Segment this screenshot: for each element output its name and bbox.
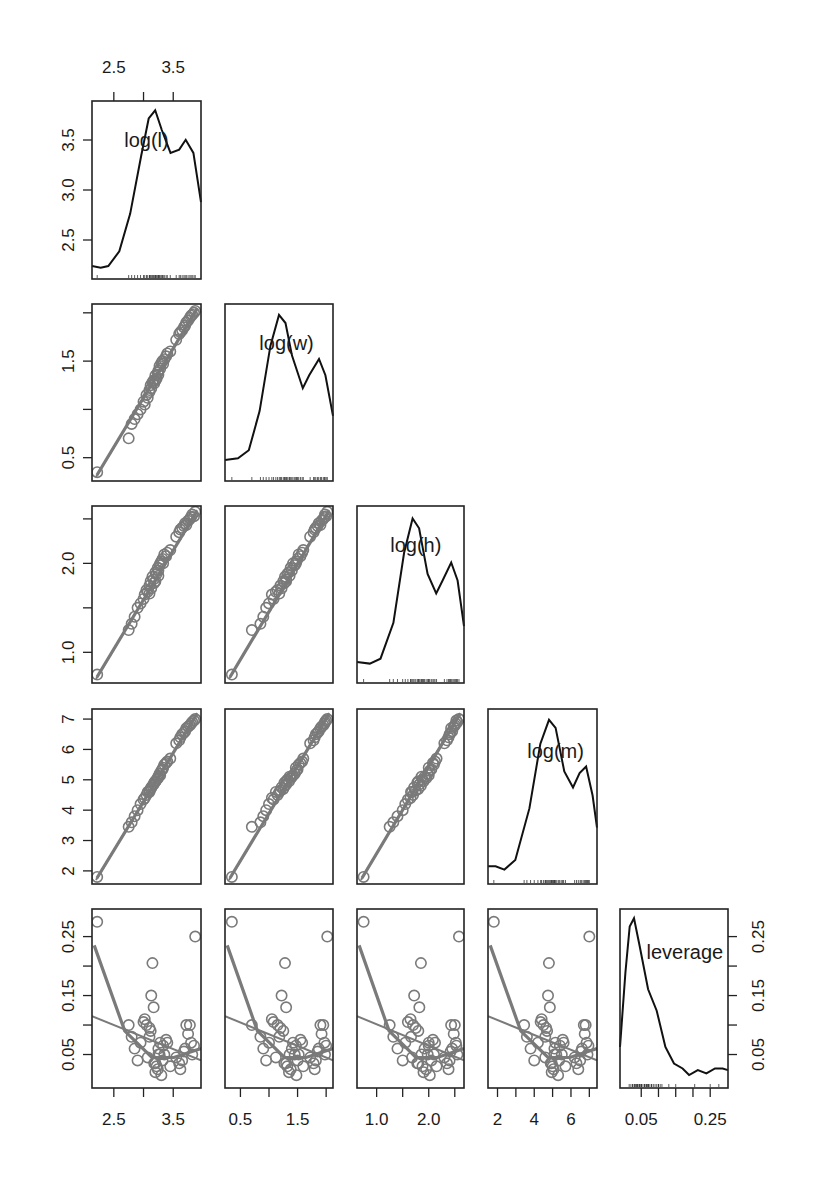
panel-content <box>92 306 200 478</box>
scatter-panel <box>488 909 597 1088</box>
axis-tick-label: 0.5 <box>59 446 78 470</box>
data-point <box>454 931 464 941</box>
smooth-fit-line <box>359 945 464 1057</box>
axis-tick-label: 0.05 <box>59 1038 78 1071</box>
data-point <box>146 990 156 1000</box>
axis-tick-label: 0.5 <box>229 1110 253 1129</box>
scatterplot-matrix: log(l)log(w)log(h)log(m)leverage2.53.03.… <box>0 0 818 1181</box>
axis-tick-label: 4 <box>59 805 78 814</box>
axis-tick-label: 1.5 <box>286 1110 310 1129</box>
panel-content <box>357 917 464 1081</box>
data-point <box>298 1061 308 1071</box>
data-point <box>148 1002 158 1012</box>
scatter-panel <box>92 304 201 481</box>
data-point <box>280 958 290 968</box>
data-point <box>416 958 426 968</box>
axis-tick-label: 7 <box>59 714 78 723</box>
scatter-panel <box>92 709 201 884</box>
bottom-axis-4: 0.050.25 <box>625 1088 727 1129</box>
axis-tick-label: 2.0 <box>59 552 78 576</box>
data-point <box>560 1061 570 1071</box>
axis-tick-label: 1.0 <box>59 640 78 664</box>
panel-content <box>488 917 597 1081</box>
axis-tick-label: 6 <box>566 1110 575 1129</box>
axis-tick-label: 3.0 <box>59 178 78 202</box>
scatter-panel <box>225 909 333 1088</box>
data-point <box>544 958 554 968</box>
data-point <box>258 1043 268 1053</box>
smooth-fit-line <box>230 511 329 677</box>
scatter-panel <box>92 506 201 683</box>
axis-tick-label: 0.25 <box>694 1110 727 1129</box>
panel-content <box>92 713 200 882</box>
panel-frame <box>620 909 728 1088</box>
scatter-panel <box>92 909 201 1088</box>
variable-label: log(w) <box>259 332 313 354</box>
variable-label: log(l) <box>124 129 168 151</box>
axis-tick-label: 0.25 <box>59 920 78 953</box>
bottom-axis-1: 0.51.5 <box>229 1088 327 1129</box>
axis-tick-label: 3.5 <box>59 128 78 152</box>
panel-frame <box>225 304 333 481</box>
panel-content <box>225 917 333 1081</box>
data-point <box>261 1055 271 1065</box>
bottom-axis-3: 246 <box>493 1088 590 1129</box>
axis-tick-label: 2.5 <box>102 58 126 77</box>
data-point <box>430 1038 440 1048</box>
panel-frame <box>357 506 464 683</box>
data-point <box>267 1014 277 1024</box>
data-point <box>147 958 157 968</box>
data-point <box>409 990 419 1000</box>
axis-tick-label: 3.5 <box>161 1110 185 1129</box>
data-point <box>123 1020 133 1030</box>
axis-tick-label: 3 <box>59 836 78 845</box>
data-point <box>414 1002 424 1012</box>
data-point <box>358 917 368 927</box>
density-panel-logh: log(h) <box>357 506 464 683</box>
axis-tick-label: 6 <box>59 745 78 754</box>
axis-tick-label: 2 <box>493 1110 502 1129</box>
left-axis-2: 1.02.0 <box>59 519 92 664</box>
data-point <box>227 917 237 927</box>
left-axis-3: 234567 <box>59 714 92 875</box>
data-point <box>525 1043 535 1053</box>
data-point <box>129 1043 139 1053</box>
data-point <box>276 990 286 1000</box>
axis-tick-label: 0.05 <box>749 1038 768 1071</box>
axis-tick-label: 0.15 <box>749 979 768 1012</box>
left-axis-4: 0.050.150.25 <box>59 920 92 1071</box>
data-point <box>281 1002 291 1012</box>
scatter-panel <box>225 709 333 884</box>
variable-label: leverage <box>646 941 723 963</box>
density-panel-logm: log(m) <box>488 709 597 884</box>
data-point <box>584 931 594 941</box>
axis-tick-label: 0.15 <box>59 979 78 1012</box>
axis-tick-label: 3.5 <box>161 58 185 77</box>
panel-content <box>227 507 333 680</box>
data-point <box>545 1002 555 1012</box>
density-panel-logw: log(w) <box>225 304 333 481</box>
axis-tick-label: 5 <box>59 775 78 784</box>
variable-label: log(m) <box>527 740 584 762</box>
axis-tick-label: 4 <box>530 1110 539 1129</box>
data-point <box>190 931 200 941</box>
axis-tick-label: 1.0 <box>365 1110 389 1129</box>
data-point <box>529 1055 539 1065</box>
variable-label: log(h) <box>390 534 441 556</box>
panel-content <box>358 713 464 882</box>
bottom-axis-2: 1.02.0 <box>365 1088 455 1129</box>
panel-content <box>227 713 333 882</box>
scatter-panel <box>357 909 464 1088</box>
axis-tick-label: 1.5 <box>59 349 78 373</box>
left-axis-1: 0.51.5 <box>59 313 92 470</box>
data-point <box>123 433 133 443</box>
density-panel-leverage: leverage <box>620 909 728 1088</box>
axis-tick-label: 2.5 <box>102 1110 126 1129</box>
data-point <box>132 1055 142 1065</box>
axis-tick-label: 2.5 <box>59 228 78 252</box>
scatter-panel <box>357 709 464 884</box>
axis-tick-label: 0.05 <box>625 1110 658 1129</box>
right-axis: 0.050.150.25 <box>728 920 768 1071</box>
axis-tick-label: 2.0 <box>417 1110 441 1129</box>
axis-tick-label: 2 <box>59 866 78 875</box>
